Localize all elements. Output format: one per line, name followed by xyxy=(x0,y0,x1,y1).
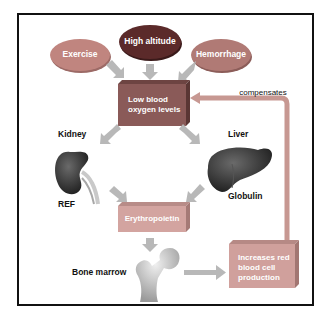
kidney-illustration xyxy=(55,152,98,204)
bone-marrow-label: Bone marrow xyxy=(72,268,132,278)
hormone-arrows xyxy=(109,184,205,202)
kidney-label: Kidney xyxy=(58,130,98,140)
cause-arrows xyxy=(106,60,196,82)
result-line3: production xyxy=(238,273,290,283)
erythropoietin-label: Erythropoietin xyxy=(118,214,186,223)
low-blood-oxygen-label: Low blood oxygen levels xyxy=(128,95,180,115)
arrow-to-result xyxy=(184,265,226,280)
globulin-label: Globulin xyxy=(228,192,278,202)
result-line1: Increases red xyxy=(238,253,290,263)
arrow-to-bone xyxy=(142,238,158,252)
result-line2: blood cell xyxy=(238,263,290,273)
low-blood-line2: oxygen levels xyxy=(128,105,180,115)
bone-marrow-illustration xyxy=(136,248,180,302)
hemorrhage-label: Hemorrhage xyxy=(191,50,251,60)
compensates-label: compensates xyxy=(228,88,298,97)
liver-label: Liver xyxy=(228,130,268,140)
organ-arrows xyxy=(100,124,200,144)
liver-illustration xyxy=(208,148,272,192)
exercise-label: Exercise xyxy=(50,50,110,60)
ref-label: REF xyxy=(58,200,88,210)
low-blood-line1: Low blood xyxy=(128,95,180,105)
increases-rbc-label: Increases red blood cell production xyxy=(238,253,290,283)
high-altitude-label: High altitude xyxy=(118,37,182,47)
